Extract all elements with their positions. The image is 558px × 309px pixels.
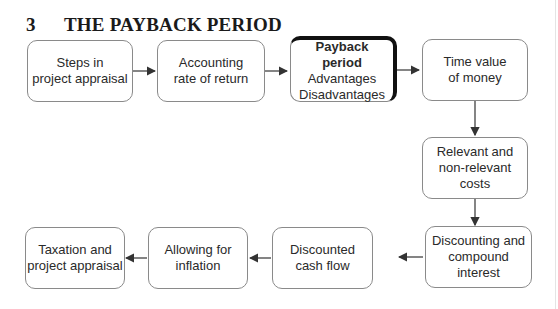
- box-steps-in-project-appraisal: Steps in project appraisal: [27, 40, 133, 102]
- box-text: Steps in: [57, 55, 104, 71]
- box-allowing-for-inflation: Allowing for inflation: [148, 227, 248, 289]
- box-text: Discounting and: [432, 233, 525, 249]
- box-text: Accounting: [179, 55, 243, 71]
- box-text: non-relevant costs: [423, 160, 527, 192]
- box-text: Discounted: [290, 242, 355, 258]
- box-text-bold: Payback: [316, 39, 369, 55]
- box-accounting-rate-of-return: Accounting rate of return: [157, 40, 265, 102]
- box-text: rate of return: [174, 71, 248, 87]
- box-text-bold: period: [322, 55, 362, 71]
- box-payback-period: Payback period Advantages Disadvantages: [290, 36, 397, 102]
- box-text: Taxation and: [38, 242, 112, 258]
- box-discounted-cash-flow: Discounted cash flow: [272, 227, 373, 289]
- box-text: Disadvantages: [299, 87, 385, 103]
- box-text: of money: [448, 70, 501, 86]
- box-relevant-costs: Relevant and non-relevant costs: [422, 137, 528, 199]
- box-text: cash flow: [295, 258, 349, 274]
- box-text: project appraisal: [27, 258, 122, 274]
- box-text: inflation: [176, 258, 221, 274]
- box-text: Time value: [443, 54, 506, 70]
- box-time-value-of-money: Time value of money: [422, 39, 528, 101]
- box-taxation-project-appraisal: Taxation and project appraisal: [25, 227, 125, 289]
- box-text: Allowing for: [164, 242, 231, 258]
- box-text: project appraisal: [32, 71, 127, 87]
- box-text: Relevant and: [437, 144, 514, 160]
- box-text: Advantages: [308, 71, 377, 87]
- box-text: compound interest: [426, 249, 531, 281]
- box-discounting-compound-interest: Discounting and compound interest: [425, 226, 532, 288]
- page-edge-divider: [555, 0, 556, 309]
